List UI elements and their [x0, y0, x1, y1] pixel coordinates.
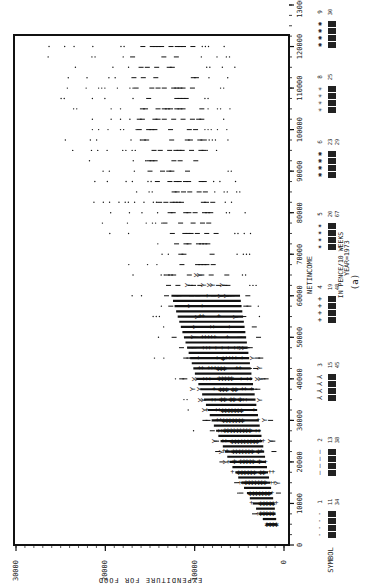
x-tick-label: 90000	[296, 161, 304, 182]
legend-symbol-code	[328, 28, 336, 34]
x-tick-label: 50000	[296, 327, 304, 348]
legend-symbol-code	[328, 374, 336, 380]
legend-symbol-code	[328, 100, 336, 106]
legend-symbol-code	[328, 237, 336, 243]
legend-symbol-number: 9	[316, 10, 323, 14]
legend-symbol-glyph: —	[316, 470, 324, 475]
legend-symbol-glyph: ✱	[316, 158, 324, 163]
legend-symbol-code	[328, 151, 336, 157]
svg-text:⅄: ⅄	[183, 282, 191, 288]
legend-symbol-glyph: ✳	[316, 93, 324, 98]
x-tick-label: 110000	[296, 75, 304, 100]
x-tick-label: 120000	[296, 34, 304, 59]
legend-symbol-glyph: ⅄	[316, 381, 324, 387]
legend-symbol-code	[328, 463, 336, 469]
chart-figure: ✱✱✱✱✱✱✱✱✱++✱✱✱✱✱++✱✱✱✱✱✱✱⅄++✱✱✱✱✱✱✱++++✱…	[0, 0, 373, 585]
x-tick-label: 0	[296, 543, 304, 547]
panel-label: (a)	[350, 274, 360, 290]
legend-symbol-glyph: ·	[316, 526, 324, 530]
x-tick-label: 60000	[296, 285, 304, 306]
svg-text:+: +	[230, 468, 234, 476]
legend-range: 23	[327, 139, 333, 146]
x-tick-label: 100000	[296, 117, 304, 142]
legend-symbol-code	[328, 532, 336, 538]
legend-symbol-glyph: ✶	[316, 230, 324, 235]
legend-range: 15	[327, 362, 333, 369]
x-axis-ticks: 0100002000030000400005000060000700008000…	[289, 0, 304, 547]
legend-symbol-glyph: ✱	[316, 172, 324, 177]
legend-symbol-code	[328, 296, 336, 302]
legend-symbol-glyph: +	[316, 318, 324, 322]
legend-range: 20	[327, 211, 333, 218]
legend-symbol-code	[328, 107, 336, 113]
legend-title: SYMBOL	[327, 547, 335, 572]
legend-symbol-glyph: ✶	[316, 223, 324, 228]
legend-symbol-glyph: ✺	[316, 28, 324, 33]
svg-text:⅄: ⅄	[253, 376, 261, 382]
legend-symbol-code	[328, 388, 336, 394]
x-tick-label: 130000	[296, 0, 304, 18]
legend-symbol-glyph: ✺	[316, 42, 324, 47]
legend-symbol-glyph: ✺	[316, 35, 324, 40]
svg-text:+: +	[268, 468, 272, 476]
x-tick-label: 80000	[296, 202, 304, 223]
svg-text:⅄: ⅄	[196, 397, 204, 403]
legend-symbol-code	[328, 381, 336, 387]
legend-symbol-glyph: —	[316, 449, 324, 454]
legend-symbol-glyph: ✱	[316, 151, 324, 156]
legend-symbol-glyph: +	[316, 304, 324, 308]
legend-range: 67	[334, 211, 340, 218]
legend-symbol-glyph: ·	[316, 512, 324, 516]
legend-symbol-code	[328, 230, 336, 236]
legend-symbol-glyph: ⅄	[316, 395, 324, 401]
legend-symbol-glyph: +	[316, 297, 324, 301]
legend-symbol-code	[328, 165, 336, 171]
svg-text:⅄: ⅄	[210, 438, 218, 444]
legend-symbol-code	[328, 470, 336, 476]
legend-range: 19	[327, 284, 333, 291]
legend-symbol-code	[328, 395, 336, 401]
legend-symbol-number: 2	[316, 438, 323, 442]
legend-symbol-number: 6	[316, 140, 323, 144]
legend-symbol-glyph: ✶	[316, 237, 324, 242]
legend-symbol-code	[328, 158, 336, 164]
legend-symbol-glyph: ⅄	[316, 388, 324, 394]
svg-text:⅄: ⅄	[260, 417, 268, 423]
legend-symbol-number: 5	[316, 212, 323, 216]
x-tick-label: 20000	[296, 451, 304, 472]
legend-symbol-glyph: ⅄	[316, 374, 324, 380]
legend-symbol-code	[328, 35, 336, 41]
legend-symbol-number: 4	[316, 285, 323, 289]
x-tick-label: 70000	[296, 244, 304, 265]
x-tick-label: 10000	[296, 493, 304, 514]
svg-text:⅄: ⅄	[188, 386, 196, 392]
legend-symbol-code	[328, 310, 336, 316]
legend-symbol-code	[328, 86, 336, 92]
legend-symbol-code	[328, 172, 336, 178]
legend-symbol-code	[328, 449, 336, 455]
legend-symbol-number: 8	[316, 75, 323, 79]
legend-range: 30	[327, 9, 333, 16]
legend-symbol-glyph: ✳	[316, 100, 324, 105]
legend-symbol-glyph: ✳	[316, 86, 324, 91]
scatter-plot: ✱✱✱✱✱✱✱✱✱++✱✱✱✱✱++✱✱✱✱✱✱✱⅄++✱✱✱✱✱✱✱++++✱…	[0, 0, 373, 585]
legend-symbol-glyph: ✺	[316, 21, 324, 26]
x-axis-label: NETINCOME	[306, 256, 314, 294]
x-tick-label: 30000	[296, 410, 304, 431]
legend-symbol-code	[328, 518, 336, 524]
legend-symbol-glyph: —	[316, 463, 324, 468]
legend-range: 13	[327, 437, 333, 444]
legend-symbol-glyph: ·	[316, 519, 324, 523]
year-label: YEAR=1973	[343, 240, 351, 275]
legend-symbol-glyph: ✱	[316, 165, 324, 170]
legend-symbol-glyph: —	[316, 456, 324, 461]
y-axis-label: EXPENDITURE FOR FOOD	[98, 576, 202, 584]
legend-symbol-code	[328, 93, 336, 99]
y-tick-label: 30000	[12, 560, 20, 581]
svg-text:⅄: ⅄	[255, 397, 263, 403]
legend-symbol-glyph: ·	[316, 533, 324, 537]
legend-symbol-code	[328, 525, 336, 531]
legend-range: 45	[334, 362, 340, 369]
legend-range: 25	[327, 74, 333, 81]
svg-text:⅄: ⅄	[192, 272, 200, 278]
